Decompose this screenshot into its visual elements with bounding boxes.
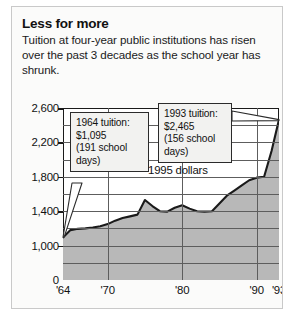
y-tick-mark [58, 177, 63, 179]
x-tick-label: '93 [272, 284, 283, 296]
callout-1993-line3: (156 school [164, 133, 226, 146]
units-note: 1995 dollars [148, 164, 208, 176]
callout-1993-line4: days) [164, 146, 226, 159]
chart-subtitle: Tuition at four-year public institutions… [22, 32, 268, 78]
x-tick-label: '80 [175, 284, 189, 296]
callout-1964-line4: days) [76, 155, 143, 168]
y-tick-mark [58, 211, 63, 213]
y-tick-label: 1,400 [15, 205, 59, 217]
y-tick-mark [58, 108, 63, 110]
horizontal-gridline [63, 228, 279, 229]
chart-figure: Less for more Tuition at four-year publi… [11, 6, 283, 309]
horizontal-gridline [63, 194, 279, 195]
callout-1964-line3: (191 school [76, 142, 143, 155]
page-title: Less for more [22, 16, 109, 31]
callout-1964-line1: 1964 tuition: [76, 117, 143, 130]
callout-1993-tuition: 1993 tuition: $2,465 (156 school days) [158, 103, 232, 163]
x-tick-label: '64 [56, 284, 70, 296]
x-tick-label: '90 [250, 284, 264, 296]
vertical-gridline [257, 108, 258, 280]
callout-1964-tuition: 1964 tuition: $1,095 (191 school days) [70, 112, 149, 172]
x-tick-label: '70 [101, 284, 115, 296]
y-tick-label: 2,600 [15, 102, 59, 114]
horizontal-gridline [63, 246, 279, 247]
y-tick-mark [58, 142, 63, 144]
horizontal-gridline [63, 177, 279, 178]
y-tick-label: 1,000 [15, 240, 59, 252]
y-tick-mark [58, 246, 63, 248]
horizontal-gridline [63, 263, 279, 264]
y-tick-label: 0 [15, 274, 59, 286]
callout-1964-line2: $1,095 [76, 130, 143, 143]
callout-1993-line1: 1993 tuition: [164, 108, 226, 121]
y-axis: 2,6002,2001,8001,4001,0000 [12, 108, 59, 280]
horizontal-gridline [63, 211, 279, 212]
y-tick-label: 1,800 [15, 171, 59, 183]
callout-1993-line2: $2,465 [164, 121, 226, 134]
y-tick-label: 2,200 [15, 136, 59, 148]
